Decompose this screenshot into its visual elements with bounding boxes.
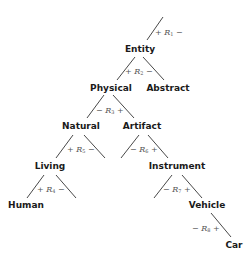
- node-vehicle: Vehicle: [189, 201, 226, 210]
- node-physical: Physical: [90, 84, 132, 93]
- node-instrument: Instrument: [149, 162, 205, 171]
- relation-label-r-physical: − R3 +: [96, 107, 124, 115]
- node-entity: Entity: [125, 45, 155, 54]
- node-human: Human: [8, 201, 44, 210]
- relation-label-r-instrument: − R7 +: [163, 186, 191, 194]
- node-car: Car: [225, 241, 242, 250]
- node-abstract: Abstract: [146, 84, 189, 93]
- node-artifact: Artifact: [123, 122, 161, 131]
- relation-label-r-living: + R4 −: [37, 186, 65, 194]
- node-living: Living: [35, 162, 66, 171]
- relation-label-r-top: + R1 −: [155, 29, 183, 37]
- hierarchy-tree-diagram: Entity Physical Abstract Natural Artifac…: [0, 0, 251, 258]
- relation-label-r-artifact: − R6 +: [130, 146, 158, 154]
- relation-label-r-natural: + R5 −: [67, 146, 95, 154]
- relation-label-r-vehicle: − R8 +: [192, 225, 220, 233]
- relation-label-r-entity: + R2 −: [125, 68, 153, 76]
- node-natural: Natural: [62, 122, 100, 131]
